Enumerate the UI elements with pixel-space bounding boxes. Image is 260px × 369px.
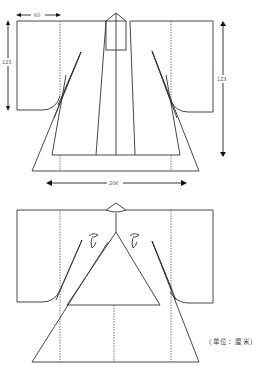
front-view: 60 123 123 xyxy=(2,11,230,187)
label-sleeve-length: 123 xyxy=(2,59,12,65)
back-view xyxy=(17,203,213,362)
dimension-garment-length: 123 xyxy=(216,21,230,157)
diamond-collar-icon xyxy=(106,203,126,212)
dimension-sleeve-width: 60 xyxy=(16,11,61,18)
cloud-ornament-right-icon xyxy=(130,234,139,248)
dimension-sleeve-length: 123 xyxy=(2,20,14,111)
label-hem-width: 206 xyxy=(109,180,119,186)
cloud-ornament-left-icon xyxy=(89,234,98,248)
robe-pattern-diagram: 60 123 123 xyxy=(0,0,260,369)
label-sleeve-width: 60 xyxy=(34,12,40,18)
label-garment-length: 123 xyxy=(217,76,227,82)
unit-note: （单位：厘米） xyxy=(205,336,258,346)
dimension-hem-width: 206 xyxy=(46,179,187,187)
